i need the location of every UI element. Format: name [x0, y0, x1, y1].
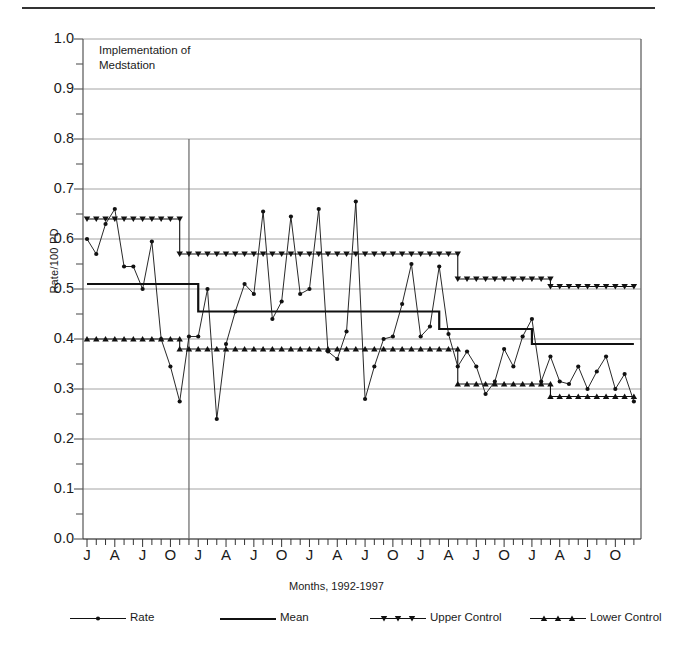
data-point: [280, 299, 284, 303]
legend-marker-glyph: [395, 616, 401, 622]
legend-marker-glyph: [381, 616, 387, 622]
data-point: [141, 287, 145, 291]
data-point: [382, 337, 386, 341]
data-point: [632, 399, 636, 403]
data-point: [437, 264, 441, 268]
data-point: [391, 334, 395, 338]
legend-marker-triangle-down: [370, 612, 426, 625]
data-point: [372, 364, 376, 368]
legend-marker-glyph: [409, 616, 415, 622]
data-point: [576, 364, 580, 368]
data-point: [483, 392, 487, 396]
data-point: [85, 237, 89, 241]
data-point: [178, 399, 182, 403]
data-point: [103, 222, 107, 226]
data-point: [196, 334, 200, 338]
data-point: [465, 349, 469, 353]
data-point: [354, 199, 358, 203]
data-point: [215, 417, 219, 421]
data-point: [548, 354, 552, 358]
legend-label: Rate: [130, 611, 154, 623]
figure-container: Rate/100 PD Months, 1992-1997 Implementa…: [0, 0, 673, 660]
data-point: [270, 317, 274, 321]
data-point: [298, 292, 302, 296]
data-point: [252, 292, 256, 296]
data-point: [187, 334, 191, 338]
data-point: [558, 379, 562, 383]
legend-line-swatch: [220, 618, 276, 620]
data-point: [400, 302, 404, 306]
data-point: [613, 387, 617, 391]
data-point: [113, 207, 117, 211]
data-point: [168, 364, 172, 368]
data-point: [94, 252, 98, 256]
series-upper-control: [84, 216, 637, 289]
data-point: [344, 329, 348, 333]
legend-marker-glyph: [569, 616, 575, 622]
data-point: [446, 332, 450, 336]
data-point: [122, 264, 126, 268]
data-point: [474, 364, 478, 368]
data-point: [409, 262, 413, 266]
legend-label: Mean: [280, 611, 309, 623]
data-point: [511, 364, 515, 368]
data-point: [428, 324, 432, 328]
data-point: [502, 347, 506, 351]
data-point: [567, 382, 571, 386]
data-point: [224, 342, 228, 346]
data-point: [604, 354, 608, 358]
data-point: [307, 287, 311, 291]
legend-label: Lower Control: [590, 611, 662, 623]
data-point: [261, 209, 265, 213]
data-point: [289, 214, 293, 218]
data-point: [530, 317, 534, 321]
legend-marker-glyph: [541, 616, 547, 622]
legend-label: Upper Control: [430, 611, 502, 623]
series-line: [87, 219, 634, 287]
series-rate: [85, 199, 636, 421]
data-point: [205, 287, 209, 291]
data-point: [131, 264, 135, 268]
data-point: [317, 207, 321, 211]
data-point: [150, 239, 154, 243]
data-point: [335, 357, 339, 361]
data-point: [242, 282, 246, 286]
legend-marker-triangle-up: [530, 612, 586, 625]
data-point: [419, 334, 423, 338]
data-point: [585, 387, 589, 391]
data-point: [623, 372, 627, 376]
legend-marker-circle: [70, 612, 126, 625]
data-point: [363, 397, 367, 401]
legend-marker-glyph: [555, 616, 561, 622]
plot-canvas: [0, 0, 673, 660]
data-point: [521, 334, 525, 338]
data-point: [595, 369, 599, 373]
legend-marker-glyph: [96, 616, 100, 620]
